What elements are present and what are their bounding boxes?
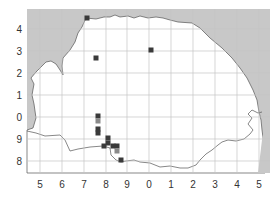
y-tick-label: 0 [16, 112, 22, 123]
x-tick-label: 9 [124, 179, 130, 190]
map-marker [115, 144, 120, 149]
y-tick-label: 2 [16, 68, 22, 79]
x-tick-label: 0 [146, 179, 152, 190]
map-marker [149, 48, 154, 53]
map-figure: 56789012345 4321098 [0, 0, 277, 199]
map-marker [94, 56, 99, 61]
y-axis-labels: 4321098 [16, 24, 22, 167]
x-tick-label: 7 [81, 179, 87, 190]
x-tick-label: 2 [190, 179, 196, 190]
map-marker [106, 136, 111, 141]
map-marker [96, 131, 101, 136]
x-tick-label: 1 [168, 179, 174, 190]
map-marker [85, 16, 90, 21]
map-marker [96, 119, 101, 124]
x-tick-label: 5 [37, 179, 43, 190]
x-tick-label: 8 [103, 179, 109, 190]
y-tick-label: 4 [16, 24, 22, 35]
map-marker [119, 158, 124, 163]
map-marker [96, 114, 101, 119]
x-tick-label: 5 [256, 179, 262, 190]
x-tick-label: 3 [212, 179, 218, 190]
map-marker [102, 144, 107, 149]
y-tick-label: 8 [16, 156, 22, 167]
x-tick-label: 6 [59, 179, 65, 190]
y-tick-label: 9 [16, 134, 22, 145]
x-axis-labels: 56789012345 [37, 179, 262, 190]
y-tick-label: 1 [16, 90, 22, 101]
y-tick-label: 3 [16, 46, 22, 57]
x-tick-label: 4 [234, 179, 240, 190]
map-marker [115, 149, 120, 154]
